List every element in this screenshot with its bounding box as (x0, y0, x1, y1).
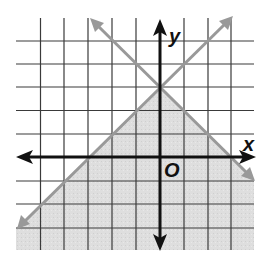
coordinate-graph: y x O (0, 0, 270, 262)
x-axis-label: x (242, 133, 255, 155)
y-axis-label: y (168, 25, 181, 47)
origin-label: O (164, 159, 180, 181)
